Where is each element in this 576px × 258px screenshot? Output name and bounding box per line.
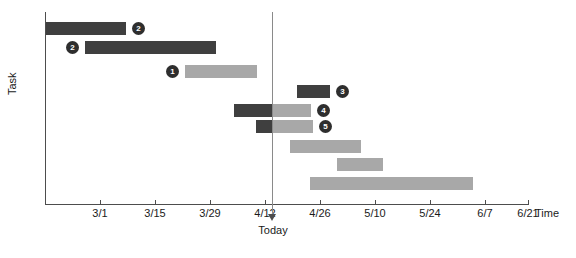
gantt-bar[interactable] <box>337 158 383 171</box>
gantt-bar[interactable] <box>46 22 126 35</box>
gantt-bar[interactable] <box>85 41 216 54</box>
x-axis-tick-label: 3/29 <box>188 207 232 219</box>
x-axis-tick <box>430 200 431 205</box>
x-axis-tick-label: 3/1 <box>78 207 122 219</box>
gantt-bar-marker[interactable]: 1 <box>166 65 179 78</box>
today-label: Today <box>248 224 298 236</box>
x-axis-tick <box>320 200 321 205</box>
gantt-bar-remaining <box>310 177 473 190</box>
x-axis-tick <box>155 200 156 205</box>
gantt-bar-progress <box>85 41 216 54</box>
x-axis-tick <box>528 200 529 205</box>
gantt-bar-progress <box>297 85 330 98</box>
y-axis-line <box>45 12 46 205</box>
gantt-bar-remaining <box>185 65 257 78</box>
x-axis-tick-label: 6/21 <box>506 207 550 219</box>
gantt-bar-progress <box>256 120 273 133</box>
x-axis-tick-label: 4/26 <box>298 207 342 219</box>
gantt-chart: Task Time 3/13/153/294/124/265/105/246/7… <box>0 0 576 258</box>
x-axis-tick <box>375 200 376 205</box>
x-axis-line <box>45 204 529 205</box>
x-axis-tick <box>485 200 486 205</box>
gantt-bar-progress <box>46 22 126 35</box>
today-arrow-icon <box>268 214 276 221</box>
x-axis-tick-label: 5/10 <box>353 207 397 219</box>
gantt-bar[interactable] <box>256 120 313 133</box>
gantt-bar-marker[interactable]: 3 <box>336 85 349 98</box>
gantt-bar-progress <box>234 104 273 117</box>
gantt-bar-marker[interactable]: 2 <box>132 22 145 35</box>
x-axis-tick-label: 4/12 <box>243 207 287 219</box>
gantt-bar[interactable] <box>297 85 330 98</box>
gantt-bar[interactable] <box>290 140 361 153</box>
gantt-bar[interactable] <box>310 177 473 190</box>
x-axis-tick-label: 5/24 <box>408 207 452 219</box>
x-axis-tick <box>210 200 211 205</box>
gantt-bar-remaining <box>290 140 361 153</box>
gantt-bar[interactable] <box>185 65 257 78</box>
gantt-bar-marker[interactable]: 5 <box>319 120 332 133</box>
today-line <box>272 12 273 217</box>
gantt-bar-remaining <box>273 104 311 117</box>
x-axis-tick <box>265 200 266 205</box>
gantt-bar-marker[interactable]: 4 <box>317 104 330 117</box>
x-axis-tick-label: 3/15 <box>133 207 177 219</box>
x-axis-tick <box>100 200 101 205</box>
gantt-bar-remaining <box>273 120 313 133</box>
gantt-bar-remaining <box>337 158 383 171</box>
y-axis-title: Task <box>6 72 18 95</box>
gantt-bar-marker[interactable]: 2 <box>66 41 79 54</box>
x-axis-tick-label: 6/7 <box>463 207 507 219</box>
